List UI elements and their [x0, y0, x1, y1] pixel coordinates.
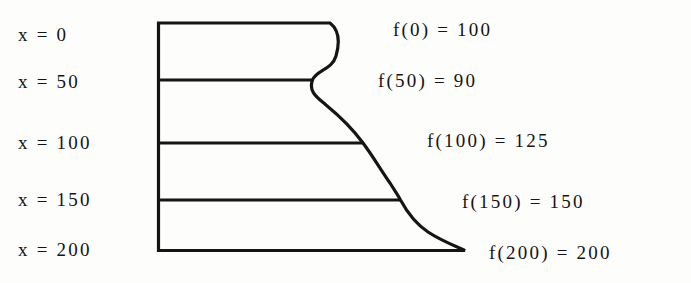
left-label-x-100: x = 100 [18, 133, 92, 152]
right-label-f-200: f(200) = 200 [489, 243, 612, 262]
right-label-f-50: f(50) = 90 [378, 71, 477, 90]
right-label-f-100: f(100) = 125 [427, 131, 550, 150]
solid-outline-path [159, 23, 466, 251]
left-label-x-0: x = 0 [18, 25, 68, 44]
right-label-f-0: f(0) = 100 [393, 20, 492, 39]
left-label-x-200: x = 200 [18, 240, 92, 259]
diagram-page: x = 0 x = 50 x = 100 x = 150 x = 200 f(0… [0, 0, 691, 283]
right-label-f-150: f(150) = 150 [462, 192, 585, 211]
cross-section-figure [0, 0, 691, 283]
left-label-x-150: x = 150 [18, 190, 92, 209]
left-label-x-50: x = 50 [18, 72, 80, 91]
